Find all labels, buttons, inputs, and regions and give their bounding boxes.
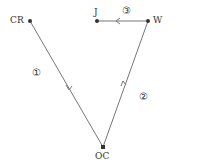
route-diagram: CR J W OC ① ② ③ (0, 0, 202, 165)
node-oc (101, 145, 105, 149)
edge-label-3: ③ (122, 6, 131, 16)
node-label-cr: CR (10, 16, 24, 25)
node-label-oc: OC (95, 152, 109, 161)
edge-label-1: ① (32, 68, 41, 78)
edge-label-2: ② (139, 92, 148, 102)
node-cr (28, 19, 32, 23)
node-label-j: J (94, 8, 98, 17)
node-j (95, 19, 99, 23)
node-label-w: W (153, 16, 162, 25)
edge-cr-oc (30, 21, 103, 147)
diagram-canvas (0, 0, 202, 165)
node-w (146, 19, 150, 23)
